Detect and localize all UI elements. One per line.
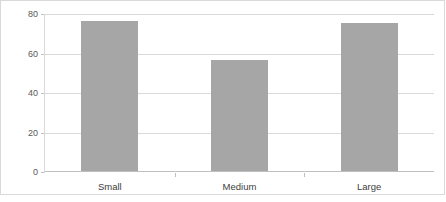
y-tick-mark [41, 133, 44, 134]
y-tick-label: 0 [33, 168, 38, 177]
y-tick-label: 20 [28, 128, 38, 137]
y-tick-mark [41, 172, 44, 173]
plot-area [45, 14, 434, 172]
y-tick-mark [41, 93, 44, 94]
y-tick-label: 80 [28, 10, 38, 19]
y-tick-label: 40 [28, 89, 38, 98]
bar-chart: 020406080 SmallMediumLarge [0, 0, 446, 202]
x-category-label: Medium [175, 181, 305, 192]
y-tick-mark [41, 14, 44, 15]
x-category-label: Large [304, 181, 434, 192]
x-tick-mark [304, 173, 305, 177]
bar-medium[interactable] [211, 60, 268, 171]
y-tick-label: 60 [28, 49, 38, 58]
x-axis-baseline [45, 171, 434, 172]
bar-large[interactable] [341, 23, 398, 171]
x-tick-mark [175, 173, 176, 177]
gridline [45, 14, 434, 15]
x-category-label: Small [45, 181, 175, 192]
bar-small[interactable] [81, 21, 138, 171]
y-tick-mark [41, 54, 44, 55]
